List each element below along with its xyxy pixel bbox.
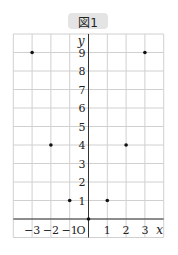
x-tick-label: −3 <box>24 224 40 237</box>
x-tick-label: 1 <box>104 224 111 237</box>
data-point <box>30 51 34 55</box>
x-tick-label: −2 <box>43 224 59 237</box>
y-tick-label: 3 <box>79 158 86 171</box>
y-tick-label: 1 <box>79 195 86 208</box>
x-tick-label: 2 <box>123 224 130 237</box>
x-tick-label: −1 <box>62 224 78 237</box>
data-point <box>49 143 53 147</box>
y-tick-label: 2 <box>79 176 86 189</box>
data-point <box>124 143 128 147</box>
y-tick-label: 5 <box>79 121 86 134</box>
data-point <box>143 51 147 55</box>
x-axis-label: x <box>156 223 163 237</box>
y-tick-label: 4 <box>79 139 86 152</box>
y-tick-label: 9 <box>79 47 86 60</box>
data-point <box>106 199 110 203</box>
scatter-plot: −3−2−1123123456789Oxy <box>0 0 178 255</box>
data-point <box>68 199 72 203</box>
y-tick-label: 7 <box>79 84 86 97</box>
data-point <box>87 217 91 221</box>
y-axis-label: y <box>77 34 85 48</box>
origin-label: O <box>76 224 85 237</box>
y-tick-label: 8 <box>79 65 86 78</box>
x-tick-label: 3 <box>141 224 148 237</box>
y-tick-label: 6 <box>79 102 86 115</box>
